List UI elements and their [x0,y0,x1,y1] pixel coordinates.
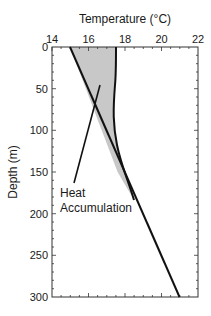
y-tick-50: 50 [36,83,48,95]
y-axis-title: Depth (m) [6,145,20,198]
annotation-heat: Heat [60,186,86,200]
y-tick-0: 0 [42,41,48,53]
x-tick-16: 16 [82,33,94,45]
x-tick-18: 18 [119,33,131,45]
y-tick-150: 150 [30,166,48,178]
x-tick-20: 20 [155,33,167,45]
y-tick-100: 100 [30,124,48,136]
y-tick-200: 200 [30,208,48,220]
y-tick-300: 300 [30,291,48,303]
x-tick-labels: 14 16 18 20 22 [46,33,204,45]
temperature-depth-chart: Temperature (°C) 14 16 18 20 22 0 50 100… [0,0,211,316]
geothermal-gradient-line [70,47,180,297]
y-tick-labels: 0 50 100 150 200 250 300 [30,41,48,303]
y-tick-250: 250 [30,249,48,261]
x-tick-22: 22 [192,33,204,45]
x-axis-title: Temperature (°C) [79,12,171,26]
annotation-accumulation: Accumulation [60,201,132,215]
annotation-leader-line [74,85,100,183]
